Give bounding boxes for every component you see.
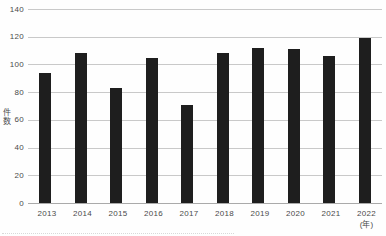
x-tick-label: 2016 [136, 210, 172, 218]
bar-2018 [217, 53, 229, 203]
x-tick-label: 2015 [100, 210, 136, 218]
bar-chart: 件数 (年) 020406080100120140201320142015201… [0, 0, 386, 236]
y-tick-label: 100 [0, 61, 24, 69]
bar-2019 [252, 48, 264, 203]
x-tick-label: 2022 [349, 210, 385, 218]
x-axis-unit-label: (年) [349, 221, 385, 229]
x-tick-label: 2018 [207, 210, 243, 218]
y-tick-label: 0 [0, 200, 24, 208]
scan-artifact-line [2, 233, 234, 234]
bar-2017 [181, 105, 193, 203]
x-tick-label: 2019 [242, 210, 278, 218]
x-tick-label: 2021 [313, 210, 349, 218]
y-tick-label: 40 [0, 144, 24, 152]
y-tick-label: 120 [0, 33, 24, 41]
bar-2022 [359, 38, 371, 203]
bar-2021 [323, 56, 335, 203]
bar-2015 [110, 88, 122, 203]
gridline [28, 9, 382, 10]
x-tick-label: 2014 [65, 210, 101, 218]
x-tick-label: 2020 [278, 210, 314, 218]
x-tick-label: 2013 [29, 210, 65, 218]
x-axis-line [28, 203, 382, 204]
bar-2014 [75, 53, 87, 203]
bar-2020 [288, 49, 300, 203]
gridline [28, 37, 382, 38]
x-tick-label: 2017 [171, 210, 207, 218]
y-tick-label: 80 [0, 89, 24, 97]
y-tick-label: 140 [0, 6, 24, 14]
y-tick-label: 60 [0, 116, 24, 124]
bar-2016 [146, 58, 158, 204]
bar-2013 [39, 73, 51, 203]
y-tick-label: 20 [0, 172, 24, 180]
